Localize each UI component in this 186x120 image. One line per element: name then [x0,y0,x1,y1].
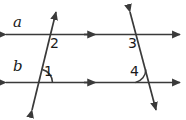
transversal-left [32,12,56,110]
geometry-canvas [0,0,186,120]
transversal-right [130,12,156,110]
geometry-figure: a b 1 2 3 4 [0,0,186,120]
line-label-b: b [13,59,23,74]
angle-label-2: 2 [50,36,59,50]
angle-label-3: 3 [128,36,137,50]
angle-label-4: 4 [130,64,139,78]
angle-label-1: 1 [44,64,53,78]
line-label-a: a [13,15,22,30]
